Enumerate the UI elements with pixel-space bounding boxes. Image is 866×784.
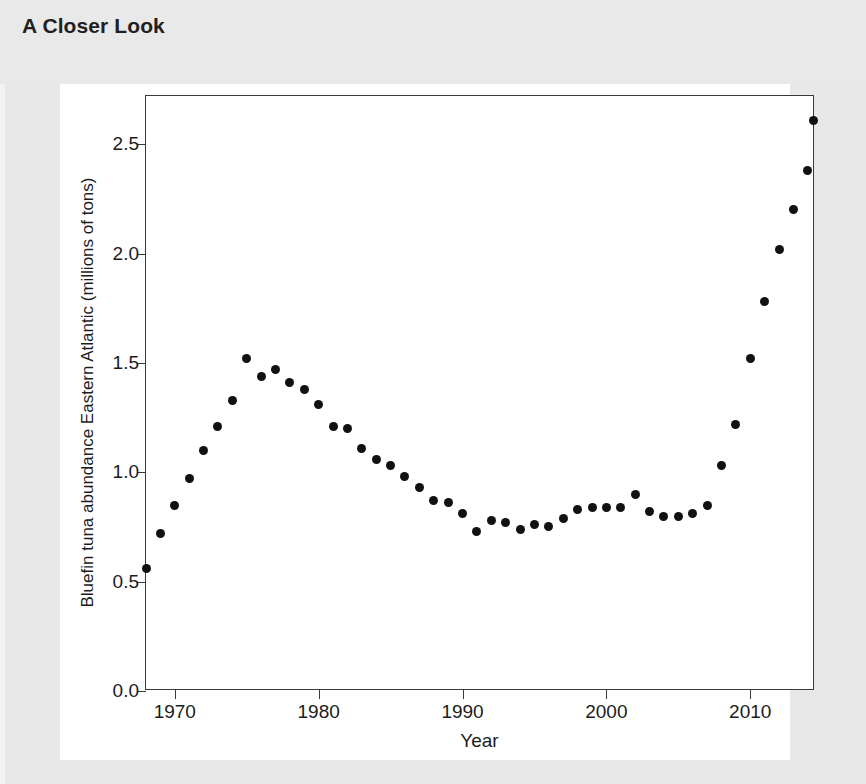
x-tick-mark xyxy=(319,689,320,699)
scatter-point xyxy=(300,385,309,394)
scatter-point xyxy=(717,461,726,470)
scatter-point xyxy=(803,166,812,175)
scatter-point xyxy=(228,396,237,405)
scatter-point xyxy=(429,496,438,505)
y-tick-label: 0.5 xyxy=(113,571,139,593)
scatter-point xyxy=(343,424,352,433)
y-tick-label: 0.0 xyxy=(113,680,139,702)
scatter-point xyxy=(314,400,323,409)
scatter-point xyxy=(809,116,818,125)
scatter-point xyxy=(213,422,222,431)
scatter-point xyxy=(760,297,769,306)
scatter-point xyxy=(199,446,208,455)
header-band: A Closer Look xyxy=(0,0,866,84)
page-title: A Closer Look xyxy=(22,14,165,38)
scatter-point xyxy=(156,529,165,538)
scatter-point xyxy=(415,483,424,492)
y-tick-label: 2.0 xyxy=(113,243,139,265)
x-tick-mark xyxy=(175,689,176,699)
scatter-point xyxy=(659,512,668,521)
scatter-point xyxy=(242,354,251,363)
scatter-point xyxy=(775,245,784,254)
scatter-point xyxy=(372,455,381,464)
scatter-point xyxy=(688,509,697,518)
x-tick-label: 1990 xyxy=(441,701,483,723)
scatter-point xyxy=(731,420,740,429)
scatter-point xyxy=(674,512,683,521)
x-tick-mark xyxy=(463,689,464,699)
y-tick-label: 1.0 xyxy=(113,461,139,483)
plot-area: 0.00.51.01.52.02.5 19701980199020002010 xyxy=(145,95,814,690)
scatter-point xyxy=(631,490,640,499)
page-root: A Closer Look 0.00.51.01.52.02.5 1970198… xyxy=(0,0,866,784)
scatter-point xyxy=(602,503,611,512)
x-tick-label: 1980 xyxy=(298,701,340,723)
scatter-point xyxy=(501,518,510,527)
scatter-point xyxy=(559,514,568,523)
scatter-point xyxy=(472,527,481,536)
scatter-point xyxy=(386,461,395,470)
y-tick-label: 1.5 xyxy=(113,352,139,374)
scatter-point xyxy=(746,354,755,363)
scatter-point xyxy=(645,507,654,516)
scatter-point xyxy=(616,503,625,512)
scatter-point xyxy=(703,501,712,510)
y-axis-label: Bluefin tuna abundance Eastern Atlantic … xyxy=(76,95,100,690)
scatter-point xyxy=(400,472,409,481)
x-tick-label: 2000 xyxy=(585,701,627,723)
x-axis-label: Year xyxy=(145,730,814,752)
scatter-point xyxy=(170,501,179,510)
x-tick-mark xyxy=(606,689,607,699)
scatter-point xyxy=(789,205,798,214)
scatter-point xyxy=(257,372,266,381)
figure-panel: 0.00.51.01.52.02.5 19701980199020002010 … xyxy=(60,84,790,760)
scatter-point xyxy=(285,378,294,387)
y-tick-label: 2.5 xyxy=(113,133,139,155)
scatter-point xyxy=(271,365,280,374)
scatter-point xyxy=(487,516,496,525)
scatter-point xyxy=(573,505,582,514)
scatter-point xyxy=(142,564,151,573)
x-tick-label: 2010 xyxy=(729,701,771,723)
x-tick-mark xyxy=(750,689,751,699)
scatter-point xyxy=(329,422,338,431)
scatter-point xyxy=(185,474,194,483)
x-tick-label: 1970 xyxy=(154,701,196,723)
scatter-point xyxy=(530,520,539,529)
scatter-point xyxy=(444,498,453,507)
scatter-point xyxy=(588,503,597,512)
scatter-point xyxy=(516,525,525,534)
scatter-point xyxy=(458,509,467,518)
scatter-point xyxy=(544,522,553,531)
scatter-point xyxy=(357,444,366,453)
